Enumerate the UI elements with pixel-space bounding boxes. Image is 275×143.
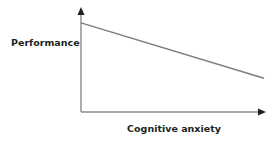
y-axis-label: Performance: [11, 37, 80, 48]
x-axis-label: Cognitive anxiety: [127, 123, 222, 134]
performance-anxiety-chart: Performance Cognitive anxiety: [0, 0, 275, 143]
y-axis-arrowhead: [78, 7, 85, 15]
x-axis-arrowhead: [258, 109, 266, 116]
series-line-0: [81, 23, 264, 78]
axes: [78, 7, 267, 116]
series-group: [81, 23, 264, 78]
